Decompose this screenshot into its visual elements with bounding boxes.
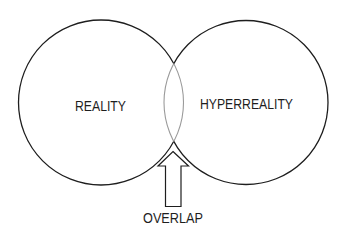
hyperreality-label: HYPERREALITY	[200, 95, 293, 112]
reality-label: REALITY	[75, 97, 126, 114]
venn-diagram: REALITY HYPERREALITY OVERLAP	[0, 0, 347, 238]
overlap-label: OVERLAP	[143, 210, 203, 226]
